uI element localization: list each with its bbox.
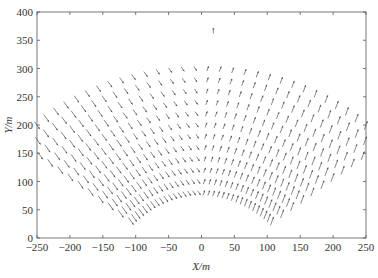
arrow-icon xyxy=(265,196,268,204)
arrow-icon xyxy=(61,132,66,139)
arrow-icon xyxy=(62,146,67,153)
arrow-icon xyxy=(164,196,168,202)
arrow-icon xyxy=(74,168,79,175)
arrow-icon xyxy=(88,188,93,195)
arrow-icon xyxy=(78,135,83,142)
arrow-icon xyxy=(275,175,278,183)
arrow-icon xyxy=(110,170,115,177)
arrow-icon xyxy=(253,141,256,148)
arrow-icon xyxy=(286,182,289,190)
y-tick-label: 100 xyxy=(17,176,34,188)
arrow-icon xyxy=(118,102,122,108)
arrow-icon xyxy=(328,154,331,162)
arrow-icon xyxy=(95,125,100,132)
arrow-icon xyxy=(53,138,58,145)
arrow-icon xyxy=(182,78,185,82)
arrow-icon xyxy=(64,160,69,167)
arrow-icon xyxy=(341,166,344,174)
arrow-icon xyxy=(144,72,148,77)
arrow-icon xyxy=(197,157,200,161)
arrow-icon xyxy=(310,170,313,178)
arrow-icon xyxy=(283,139,286,146)
arrow-icon xyxy=(78,149,83,156)
arrow-icon xyxy=(258,130,261,137)
arrow-icon xyxy=(212,28,214,34)
arrow-icon xyxy=(305,152,308,160)
arrow-icon xyxy=(212,145,214,150)
arrow-icon xyxy=(292,106,295,113)
arrow-icon xyxy=(160,173,164,179)
quiver-chart: −250−200−150−100−50050100150200250 05010… xyxy=(0,0,378,278)
arrow-icon xyxy=(204,145,206,150)
arrow-icon xyxy=(329,140,332,148)
arrow-icon xyxy=(289,170,292,178)
arrow-icon xyxy=(196,146,199,150)
arrow-icon xyxy=(154,175,158,181)
arrow-icon xyxy=(235,148,238,154)
arrow-icon xyxy=(295,174,298,182)
arrow-icon xyxy=(337,116,340,124)
arrow-icon xyxy=(48,159,53,166)
arrow-icon xyxy=(163,103,167,108)
arrow-icon xyxy=(191,168,194,172)
arrow-icon xyxy=(208,190,210,195)
arrow-icon xyxy=(244,69,246,75)
arrow-icon xyxy=(120,78,124,84)
arrow-icon xyxy=(203,190,205,195)
arrow-icon xyxy=(250,93,253,99)
arrow-icon xyxy=(156,69,160,74)
arrow-icon xyxy=(236,196,239,203)
arrow-icon xyxy=(80,162,85,169)
arrow-icon xyxy=(169,159,173,164)
arrow-icon xyxy=(183,89,186,93)
x-tick-label: −100 xyxy=(124,241,147,253)
arrow-icon xyxy=(290,143,293,151)
arrow-icon xyxy=(205,134,207,139)
arrow-icon xyxy=(268,184,271,192)
arrow-icon xyxy=(256,191,259,199)
arrow-icon xyxy=(221,135,223,140)
arrow-icon xyxy=(187,134,190,138)
arrow-icon xyxy=(218,157,220,162)
arrow-icon xyxy=(210,168,212,173)
arrow-icon xyxy=(108,81,112,87)
arrow-icon xyxy=(282,102,285,109)
arrow-icon xyxy=(281,210,284,218)
arrow-icon xyxy=(234,114,236,120)
arrow-icon xyxy=(98,196,103,203)
arrow-icon xyxy=(216,168,218,173)
arrow-icon xyxy=(166,148,170,153)
arrow-icon xyxy=(313,129,316,137)
x-tick-label: 50 xyxy=(229,241,241,253)
arrow-icon xyxy=(124,176,129,183)
arrow-icon xyxy=(83,176,88,183)
arrow-icon xyxy=(94,139,99,146)
y-tick-label: 300 xyxy=(17,63,34,75)
arrow-icon xyxy=(207,77,209,82)
arrow-icon xyxy=(297,95,300,102)
arrow-icon xyxy=(205,123,207,128)
arrow-icon xyxy=(256,71,259,77)
arrow-icon xyxy=(297,134,300,142)
arrow-icon xyxy=(68,174,73,181)
arrow-icon xyxy=(137,120,141,126)
arrow-icon xyxy=(123,113,127,119)
arrow-icon xyxy=(175,181,179,186)
arrow-icon xyxy=(242,150,245,156)
vector-field xyxy=(35,28,368,225)
arrow-icon xyxy=(143,154,147,160)
arrow-icon xyxy=(253,203,256,211)
arrow-icon xyxy=(88,115,93,122)
arrow-icon xyxy=(124,88,128,94)
arrow-icon xyxy=(331,173,334,181)
arrow-icon xyxy=(198,191,201,195)
y-tick-label: 200 xyxy=(17,119,34,131)
arrow-icon xyxy=(300,178,303,186)
arrow-icon xyxy=(271,98,274,105)
arrow-icon xyxy=(154,139,158,144)
arrow-icon xyxy=(172,90,175,95)
arrow-icon xyxy=(162,138,166,143)
arrow-icon xyxy=(182,158,185,163)
arrow-icon xyxy=(168,125,172,130)
arrow-icon xyxy=(155,163,159,169)
